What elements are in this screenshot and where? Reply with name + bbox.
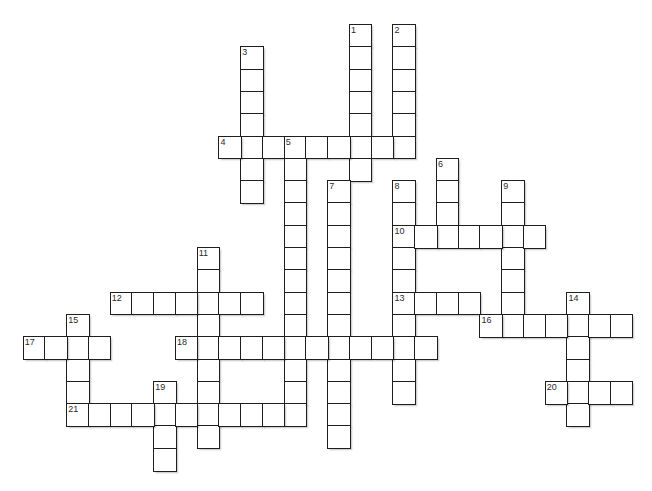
crossword-cell[interactable] <box>305 336 328 360</box>
crossword-cell[interactable]: 11 <box>197 247 220 271</box>
crossword-cell[interactable]: 14 <box>566 292 589 316</box>
crossword-cell[interactable] <box>349 91 372 115</box>
crossword-cell[interactable]: 5 <box>284 136 307 160</box>
crossword-cell[interactable] <box>349 336 372 360</box>
crossword-cell[interactable] <box>240 292 263 316</box>
crossword-cell[interactable] <box>501 269 524 293</box>
crossword-cell[interactable] <box>523 314 546 338</box>
crossword-cell[interactable] <box>284 202 307 226</box>
crossword-cell[interactable] <box>66 336 89 360</box>
crossword-cell[interactable] <box>44 336 67 360</box>
crossword-cell[interactable]: 10 <box>392 225 415 249</box>
crossword-cell[interactable] <box>327 136 350 160</box>
crossword-cell[interactable] <box>392 113 415 137</box>
crossword-cell[interactable] <box>327 225 350 249</box>
crossword-cell[interactable] <box>588 314 611 338</box>
crossword-cell[interactable] <box>501 314 524 338</box>
crossword-cell[interactable] <box>327 247 350 271</box>
crossword-cell[interactable] <box>392 136 415 160</box>
crossword-cell[interactable]: 18 <box>175 336 198 360</box>
crossword-cell[interactable] <box>566 336 589 360</box>
crossword-cell[interactable] <box>197 314 220 338</box>
crossword-cell[interactable] <box>392 359 415 383</box>
crossword-cell[interactable]: 12 <box>110 292 133 316</box>
crossword-cell[interactable] <box>501 247 524 271</box>
crossword-cell[interactable] <box>240 69 263 93</box>
crossword-cell[interactable] <box>566 403 589 427</box>
crossword-cell[interactable] <box>371 336 394 360</box>
crossword-cell[interactable] <box>349 69 372 93</box>
crossword-cell[interactable] <box>588 381 611 405</box>
crossword-cell[interactable]: 16 <box>479 314 502 338</box>
crossword-cell[interactable] <box>436 225 459 249</box>
crossword-cell[interactable] <box>153 448 176 472</box>
crossword-cell[interactable] <box>240 113 263 137</box>
crossword-cell[interactable]: 15 <box>66 314 89 338</box>
crossword-cell[interactable] <box>284 381 307 405</box>
crossword-cell[interactable]: 1 <box>349 24 372 48</box>
crossword-cell[interactable] <box>414 336 437 360</box>
crossword-cell[interactable] <box>610 314 633 338</box>
crossword-cell[interactable] <box>392 91 415 115</box>
crossword-cell[interactable] <box>349 158 372 182</box>
crossword-cell[interactable] <box>436 180 459 204</box>
crossword-cell[interactable] <box>153 292 176 316</box>
crossword-cell[interactable] <box>197 403 220 427</box>
crossword-cell[interactable] <box>218 292 241 316</box>
crossword-cell[interactable] <box>153 425 176 449</box>
crossword-cell[interactable] <box>566 381 589 405</box>
crossword-cell[interactable] <box>392 381 415 405</box>
crossword-cell[interactable]: 2 <box>392 24 415 48</box>
crossword-cell[interactable] <box>327 202 350 226</box>
crossword-cell[interactable] <box>458 225 481 249</box>
crossword-cell[interactable] <box>392 314 415 338</box>
crossword-cell[interactable] <box>392 247 415 271</box>
crossword-cell[interactable] <box>327 359 350 383</box>
crossword-cell[interactable] <box>305 136 328 160</box>
crossword-cell[interactable] <box>392 336 415 360</box>
crossword-cell[interactable] <box>327 403 350 427</box>
crossword-cell[interactable] <box>392 69 415 93</box>
crossword-cell[interactable] <box>240 136 263 160</box>
crossword-cell[interactable] <box>284 225 307 249</box>
crossword-cell[interactable] <box>262 136 285 160</box>
crossword-cell[interactable] <box>197 292 220 316</box>
crossword-cell[interactable] <box>284 359 307 383</box>
crossword-cell[interactable]: 17 <box>23 336 46 360</box>
crossword-cell[interactable] <box>349 46 372 70</box>
crossword-cell[interactable] <box>414 292 437 316</box>
crossword-cell[interactable] <box>153 403 176 427</box>
crossword-cell[interactable] <box>501 292 524 316</box>
crossword-cell[interactable]: 3 <box>240 46 263 70</box>
crossword-cell[interactable] <box>392 202 415 226</box>
crossword-cell[interactable] <box>218 336 241 360</box>
crossword-cell[interactable]: 8 <box>392 180 415 204</box>
crossword-cell[interactable] <box>566 359 589 383</box>
crossword-cell[interactable] <box>501 225 524 249</box>
crossword-cell[interactable] <box>197 425 220 449</box>
crossword-cell[interactable] <box>284 292 307 316</box>
crossword-cell[interactable] <box>110 403 133 427</box>
crossword-cell[interactable] <box>371 136 394 160</box>
crossword-cell[interactable]: 7 <box>327 180 350 204</box>
crossword-cell[interactable] <box>479 225 502 249</box>
crossword-cell[interactable] <box>262 403 285 427</box>
crossword-cell[interactable] <box>349 136 372 160</box>
crossword-cell[interactable] <box>197 381 220 405</box>
crossword-cell[interactable] <box>175 292 198 316</box>
crossword-cell[interactable]: 4 <box>218 136 241 160</box>
crossword-cell[interactable] <box>240 403 263 427</box>
crossword-cell[interactable] <box>392 46 415 70</box>
crossword-cell[interactable] <box>131 292 154 316</box>
crossword-cell[interactable] <box>436 292 459 316</box>
crossword-cell[interactable] <box>327 314 350 338</box>
crossword-cell[interactable] <box>284 403 307 427</box>
crossword-cell[interactable] <box>66 381 89 405</box>
crossword-cell[interactable] <box>175 403 198 427</box>
crossword-cell[interactable] <box>545 314 568 338</box>
crossword-cell[interactable]: 19 <box>153 381 176 405</box>
crossword-cell[interactable] <box>610 381 633 405</box>
crossword-cell[interactable]: 20 <box>545 381 568 405</box>
crossword-cell[interactable] <box>240 158 263 182</box>
crossword-cell[interactable] <box>284 336 307 360</box>
